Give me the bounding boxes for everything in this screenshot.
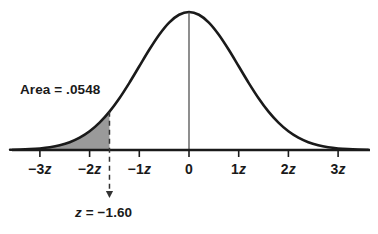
tick-number: 0 <box>185 161 193 177</box>
tick-label-3: 3z <box>330 161 345 177</box>
area-label: Area = .0548 <box>20 82 100 97</box>
tick-label-neg3: −3z <box>28 161 52 177</box>
normal-distribution-figure <box>0 0 378 234</box>
tick-number: 1 <box>231 161 239 177</box>
tick-label-neg1: −1z <box>128 161 152 177</box>
tick-z-symbol: z <box>289 161 296 177</box>
annotation-arrowhead <box>106 191 113 198</box>
tick-label-1: 1z <box>231 161 246 177</box>
tick-z-symbol: z <box>239 161 246 177</box>
tick-label-neg2: −2z <box>78 161 102 177</box>
tick-z-symbol: z <box>144 161 151 177</box>
critical-value-annotation: z = −1.60 <box>75 205 132 220</box>
annotation-value: = −1.60 <box>82 205 132 220</box>
annotation-z-symbol: z <box>75 205 82 220</box>
tick-z-symbol: z <box>94 161 101 177</box>
tick-z-symbol: z <box>44 161 51 177</box>
tick-label-2: 2z <box>281 161 296 177</box>
tick-label-0: 0 <box>185 161 193 177</box>
tick-number: 2 <box>281 161 289 177</box>
tick-z-symbol: z <box>338 161 345 177</box>
tick-number: −1 <box>128 161 144 177</box>
tick-number: −2 <box>78 161 94 177</box>
tick-number: −3 <box>28 161 44 177</box>
